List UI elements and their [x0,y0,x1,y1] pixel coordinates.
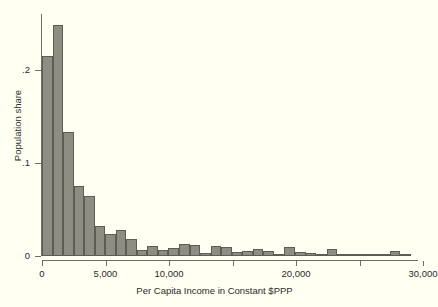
histogram-bar [284,247,295,256]
histogram-bar [379,254,390,256]
histogram-bar [137,250,148,256]
x-axis-tick [106,261,107,266]
y-axis-line [41,14,42,256]
y-axis-tick [35,70,41,71]
histogram-bar [242,251,253,256]
histogram-bar [232,252,243,256]
histogram-bar [126,239,137,256]
histogram-bar [337,254,348,256]
histogram-bar [369,254,380,256]
y-axis-tick-label: .2 [22,65,30,75]
histogram-bar [211,246,222,256]
histogram-bar [400,254,411,256]
histogram-bar [116,230,127,256]
x-axis-title: Per Capita Income in Constant $PPP [0,285,429,296]
histogram-bar [42,56,53,256]
plot-area [42,14,423,256]
histogram-bar [95,226,106,256]
y-axis-tick-label: 0 [25,251,30,261]
x-axis-tick [360,261,361,266]
x-axis-tick-label: 10,000 [154,268,183,279]
histogram-bar [53,25,64,256]
histogram-bar [316,254,327,256]
x-axis-tick-label: 0 [39,268,44,279]
x-axis-tick [169,261,170,266]
histogram-bar [274,254,285,256]
histogram-bar [327,249,338,256]
histogram-bar [168,248,179,256]
histogram-bar [179,244,190,256]
histogram-bar [158,250,169,257]
histogram-bar [63,132,74,256]
x-axis-tick [296,261,297,266]
histogram-bar [200,253,211,256]
histogram-bar [221,247,232,256]
histogram-bar [263,251,274,256]
histogram-bar [295,252,306,256]
histogram-bar [348,254,359,256]
histogram-bar [390,251,401,256]
histogram-bar [306,253,317,256]
histogram-bar [253,249,264,256]
x-axis-tick-label: 20,000 [281,268,310,279]
y-axis-tick-label: .1 [22,158,30,168]
histogram-bar [190,245,201,256]
x-axis-tick [42,261,43,266]
histogram-bar [105,234,116,256]
y-axis-tick [35,163,41,164]
histogram-bar [147,246,158,256]
x-axis-tick [423,261,424,266]
x-axis-tick [233,261,234,266]
histogram-bar [74,186,85,256]
x-axis-tick-label: 5,000 [94,268,118,279]
y-axis-title: Population share [12,66,23,186]
x-axis-tick-label: 30,000 [408,268,437,279]
histogram-bar [84,196,95,257]
y-axis-tick [35,256,41,257]
histogram-bar [358,254,369,256]
x-axis-line [42,260,418,261]
